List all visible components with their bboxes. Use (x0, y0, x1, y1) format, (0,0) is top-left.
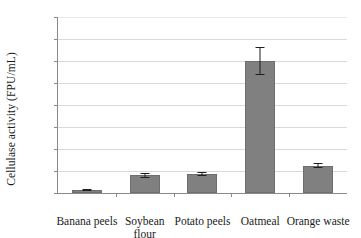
y-tick-mark (54, 193, 58, 194)
error-bar (140, 173, 149, 179)
bar-slot (289, 17, 347, 193)
bar[interactable] (303, 166, 333, 194)
bars-layer (58, 17, 347, 193)
bar-slot (58, 17, 116, 193)
error-bar (256, 47, 265, 76)
bar-slot (174, 17, 232, 193)
bar-chart-figure: Cellulase activity (FPU/mL) 024681012141… (0, 0, 361, 238)
bar[interactable] (245, 61, 275, 193)
y-axis-title: Cellulase activity (FPU/mL) (0, 0, 22, 238)
error-bar (82, 189, 91, 191)
x-tick-label: Orange waste (281, 215, 355, 228)
error-bar (314, 163, 323, 169)
bar-slot (116, 17, 174, 193)
bar[interactable] (187, 174, 217, 193)
x-tick-mark (174, 193, 175, 197)
plot-area: 0246810121416 Banana peelsSoybean flourP… (57, 17, 347, 194)
x-tick-mark (116, 193, 117, 197)
x-tick-mark (231, 193, 232, 197)
bar-slot (231, 17, 289, 193)
error-bar (198, 172, 207, 176)
x-tick-mark (289, 193, 290, 197)
